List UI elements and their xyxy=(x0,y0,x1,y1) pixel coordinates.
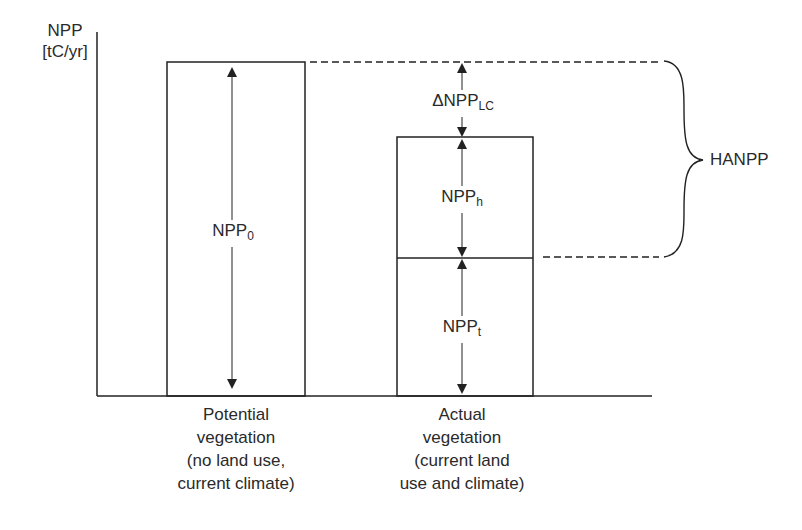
actual-caption: Actualvegetation(current landuse and cli… xyxy=(382,403,542,495)
potential-caption: Potentialvegetation(no land use,current … xyxy=(156,403,316,495)
actual-bar xyxy=(397,137,533,396)
nppt-label: NPPt xyxy=(430,316,494,343)
brace xyxy=(664,61,703,257)
npph-label: NPPh xyxy=(430,186,494,213)
y-axis-label: NPP[tC/yr] xyxy=(40,20,90,62)
npp0-label: NPP0 xyxy=(198,220,268,247)
hanpp-label: HANPP xyxy=(710,149,780,170)
delta-npp-lc-label: ΔNPPLC xyxy=(420,90,506,117)
